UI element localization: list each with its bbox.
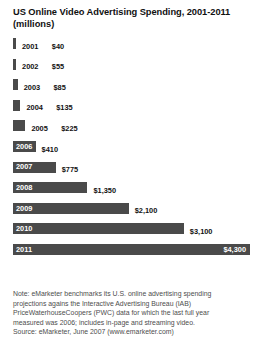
label-spacer	[38, 35, 51, 52]
chart-container: US Online Video Advertising Spending, 20…	[0, 0, 263, 351]
bar-2004	[13, 100, 20, 111]
bar-2003	[13, 79, 18, 90]
bar-year-label: 2009	[13, 205, 32, 212]
chart-subtitle: (millions)	[13, 18, 253, 30]
bar-row: 2011$4,300	[13, 244, 263, 255]
note-line: Note: eMarketer benchmarks its U.S. onli…	[13, 289, 253, 299]
bar-row: 2006$410	[13, 141, 263, 152]
bar-2006: 2006	[13, 141, 36, 152]
bar-year-label: 2004	[26, 103, 42, 112]
bar-value-label: $4,300	[223, 246, 246, 253]
label-spacer	[43, 96, 56, 113]
bar-outside-labels: $1,350	[93, 180, 116, 196]
label-spacer	[38, 55, 51, 72]
chart-title-block: US Online Video Advertising Spending, 20…	[13, 6, 253, 31]
bar-outside-labels: 2005 $225	[31, 118, 77, 134]
bar-year-label: 2002	[22, 62, 38, 71]
bar-year-label: 2005	[31, 124, 47, 133]
label-spacer	[40, 76, 53, 93]
bar-outside-labels: 2004 $135	[26, 97, 72, 113]
bar-value-label: $55	[52, 62, 64, 71]
bar-row: 2009$2,100	[13, 203, 263, 214]
bar-year-label: 2008	[13, 184, 32, 191]
chart-footnote: Note: eMarketer benchmarks its U.S. onli…	[13, 289, 253, 337]
bar-row: 2005 $225	[13, 120, 263, 131]
bar-year-label: 2010	[13, 225, 32, 232]
chart-source: Source: eMarketer, June 2007 (www.emarke…	[13, 327, 253, 337]
bar-row: 2004 $135	[13, 100, 263, 111]
bar-row: 2001 $40	[13, 38, 263, 49]
bar-year-label: 2011	[13, 246, 32, 253]
bar-value-label: $135	[56, 103, 72, 112]
bar-row: 2002 $55	[13, 59, 263, 70]
bar-outside-labels: $2,100	[135, 200, 158, 216]
note-line: projections agains the Interactive Adver…	[13, 299, 253, 309]
label-spacer	[48, 117, 61, 134]
bar-plot-area: 2001 $402002 $552003 $852004 $1352005 $2…	[0, 36, 263, 284]
bar-outside-labels: $775	[62, 159, 78, 175]
bar-outside-labels: 2003 $85	[24, 77, 66, 93]
bar-outside-labels: 2002 $55	[22, 56, 64, 72]
page-title: US Online Video Advertising Spending, 20…	[13, 6, 253, 18]
bar-year-label: 2003	[24, 83, 40, 92]
bar-value-label: $85	[53, 83, 65, 92]
bar-2009: 2009	[13, 203, 129, 214]
bar-row: 2008$1,350	[13, 182, 263, 193]
bar-outside-labels: $410	[42, 139, 58, 155]
bar-2010: 2010	[13, 223, 184, 234]
bar-year-label: 2007	[13, 163, 32, 170]
bar-2005	[13, 120, 25, 131]
bar-value-label: $1,350	[93, 186, 116, 195]
bar-value-label: $40	[52, 42, 64, 51]
note-line: measured was 2006; includes in-page and …	[13, 318, 253, 328]
bar-year-label: 2001	[22, 42, 38, 51]
bar-value-label: $410	[42, 145, 58, 154]
bar-row: 2010$3,100	[13, 223, 263, 234]
bar-2007: 2007	[13, 162, 56, 173]
note-line: PriceWaterhouseCoopers (PWC) data for wh…	[13, 308, 253, 318]
bar-2001	[13, 38, 16, 49]
bar-2002	[13, 59, 16, 70]
bar-outside-labels: $3,100	[190, 221, 213, 237]
bar-row: 2007$775	[13, 162, 263, 173]
bar-value-label: $775	[62, 165, 78, 174]
bar-value-label: $225	[61, 124, 77, 133]
bar-row: 2003 $85	[13, 79, 263, 90]
bar-2011: 2011$4,300	[13, 244, 250, 255]
bar-value-label: $2,100	[135, 206, 158, 215]
bar-value-label: $3,100	[190, 227, 213, 236]
bar-outside-labels: 2001 $40	[22, 36, 64, 52]
bar-year-label: 2006	[13, 143, 32, 150]
bar-2008: 2008	[13, 182, 87, 193]
